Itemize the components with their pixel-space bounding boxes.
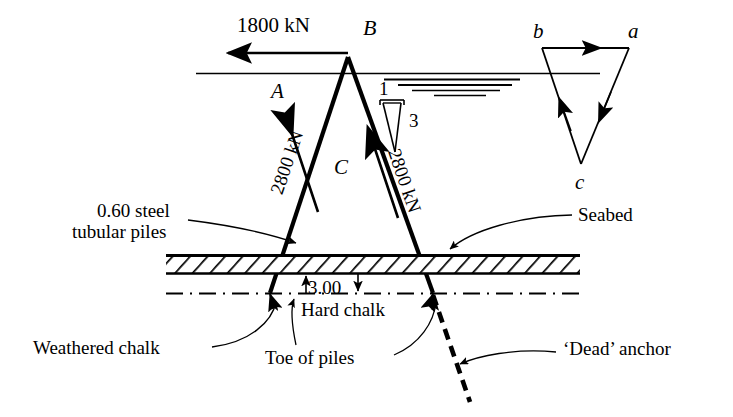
label-weathered-chalk: Weathered chalk [33, 337, 160, 358]
label-dead-anchor: ‘Dead’ anchor [563, 338, 671, 359]
label-slope-vertical: 3 [409, 110, 419, 131]
force-triangle-arrowheads [562, 48, 611, 131]
label-embedment-depth: 3.00 [308, 277, 341, 298]
slope-marker-1-in-3 [380, 100, 404, 152]
leader-dead-anchor [460, 351, 556, 364]
label-piles-line2: tubular piles [72, 221, 166, 242]
label-region-a: A [271, 80, 284, 104]
label-slope-horizontal: 1 [379, 78, 389, 99]
label-applied-load: 1800 kN [237, 14, 310, 38]
label-region-c: C [334, 156, 348, 180]
force-triangle [542, 48, 629, 164]
label-seabed: Seabed [578, 204, 633, 225]
label-force-triangle-a: a [628, 20, 639, 44]
leader-seabed [450, 215, 572, 249]
label-hard-chalk: Hard chalk [301, 299, 385, 320]
leader-piles [188, 220, 296, 243]
figure-canvas: 1800 kN B A C 1 3 2800 kN 2800 kN 0.60 s… [0, 0, 733, 417]
label-toe-of-piles: Toe of piles [265, 347, 354, 368]
leader-toe-of-piles-left [292, 299, 296, 345]
leader-weathered-chalk [212, 302, 276, 347]
dead-anchor-tie [433, 295, 470, 402]
label-force-triangle-c: c [575, 171, 584, 195]
seabed-layer [166, 256, 580, 274]
label-force-triangle-b: b [533, 20, 544, 44]
label-node-b: B [363, 16, 376, 41]
water-ripple-marks [384, 80, 520, 96]
label-piles-line1: 0.60 steel [97, 200, 170, 221]
leader-toe-of-piles-right [394, 302, 436, 355]
